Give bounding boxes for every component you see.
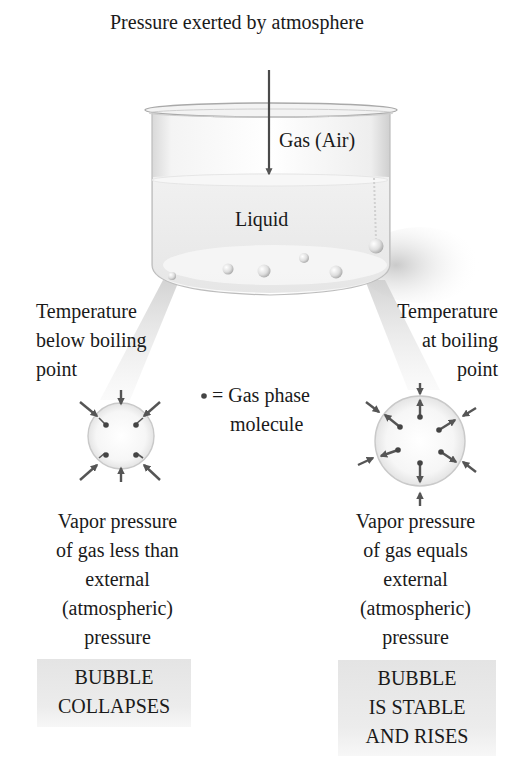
right-condition-line-3: point bbox=[457, 355, 498, 384]
right-result-line-2: IS STABLE bbox=[338, 693, 496, 722]
left-result-line-1: BUBBLE bbox=[37, 663, 191, 692]
left-condition-line-3: point bbox=[36, 355, 77, 384]
right-explanation-line-1: Vapor pressure bbox=[318, 507, 513, 536]
title-atmospheric-pressure: Pressure exerted by atmosphere bbox=[110, 8, 364, 37]
right-explanation-line-5: pressure bbox=[318, 623, 513, 652]
gas-molecule-legend-dot bbox=[201, 393, 207, 399]
right-condition-line-2: at boiling bbox=[422, 326, 498, 355]
right-explanation-line-3: external bbox=[318, 565, 513, 594]
legend-line-2: molecule bbox=[230, 410, 303, 439]
left-explanation-line-3: external bbox=[20, 565, 215, 594]
left-condition-line-2: below boiling bbox=[36, 326, 147, 355]
right-result-box: BUBBLE IS STABLE AND RISES bbox=[338, 660, 496, 756]
right-explanation-line-4: (atmospheric) bbox=[318, 594, 513, 623]
beaker bbox=[145, 103, 397, 295]
right-result-line-3: AND RISES bbox=[338, 722, 496, 751]
right-result-line-1: BUBBLE bbox=[338, 664, 496, 693]
left-condition-line-1: Temperature bbox=[36, 297, 137, 326]
liquid-label: Liquid bbox=[235, 205, 288, 234]
gas-air-label: Gas (Air) bbox=[279, 126, 355, 155]
left-bubble bbox=[80, 390, 160, 482]
left-explanation-line-5: pressure bbox=[20, 623, 215, 652]
legend-line-1: = Gas phase bbox=[212, 381, 310, 410]
left-result-line-2: COLLAPSES bbox=[37, 692, 191, 721]
right-explanation-line-2: of gas equals bbox=[318, 536, 513, 565]
right-bubble bbox=[358, 383, 476, 506]
left-result-box: BUBBLE COLLAPSES bbox=[37, 659, 191, 727]
left-explanation-line-1: Vapor pressure bbox=[20, 507, 215, 536]
right-condition-line-1: Temperature bbox=[397, 297, 498, 326]
left-explanation-line-2: of gas less than bbox=[20, 536, 215, 565]
left-explanation-line-4: (atmospheric) bbox=[20, 594, 215, 623]
